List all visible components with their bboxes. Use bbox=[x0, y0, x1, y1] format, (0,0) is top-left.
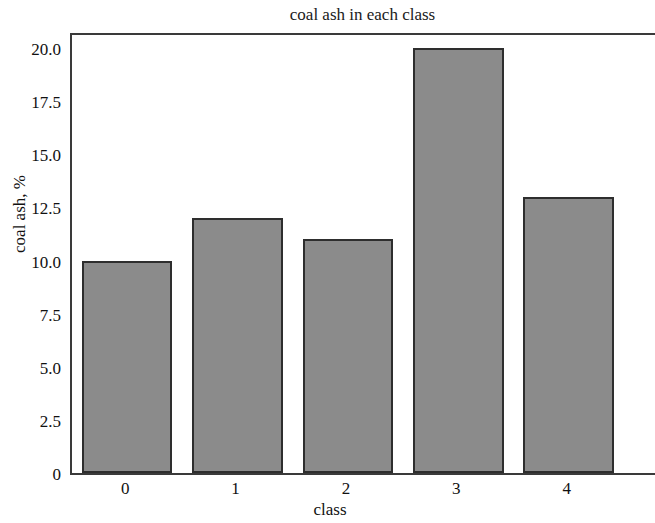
bar bbox=[413, 48, 504, 473]
y-axis-tick-label: 10.0 bbox=[0, 254, 61, 271]
y-axis-tick-label: 15.0 bbox=[0, 147, 61, 164]
x-axis-tick-label: 0 bbox=[70, 480, 180, 498]
y-axis-tick-label: 5.0 bbox=[0, 360, 61, 377]
bar bbox=[523, 197, 614, 473]
bar bbox=[192, 218, 283, 473]
plot-area bbox=[70, 33, 655, 475]
chart-figure: coal ash in each class coal ash, % 02.55… bbox=[0, 0, 655, 523]
x-axis-tick-label: 4 bbox=[512, 480, 622, 498]
y-axis-tick-label: 17.5 bbox=[0, 94, 61, 111]
x-axis-label: class bbox=[70, 500, 590, 519]
bar bbox=[303, 239, 394, 473]
y-axis-tick-label: 0 bbox=[0, 466, 61, 483]
x-axis-tick-label: 2 bbox=[291, 480, 401, 498]
x-axis-tick-label: 1 bbox=[181, 480, 291, 498]
x-axis-tick-label: 3 bbox=[401, 480, 511, 498]
y-axis-tick-label: 12.5 bbox=[0, 200, 61, 217]
y-axis-tick-label: 2.5 bbox=[0, 413, 61, 430]
bar bbox=[82, 261, 173, 474]
y-axis-tick-label: 7.5 bbox=[0, 307, 61, 324]
chart-title: coal ash in each class bbox=[70, 4, 655, 26]
y-axis-tick-label: 20.0 bbox=[0, 41, 61, 58]
